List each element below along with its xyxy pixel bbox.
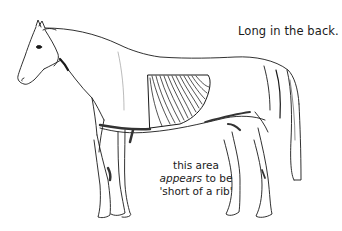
figure-title: Long in the back.: [238, 24, 339, 38]
horse-head: [18, 20, 61, 84]
caption-line-2: appears to be: [150, 172, 242, 185]
horse-chest: [92, 52, 124, 152]
horse-conformation-figure: Long in the back. this area appears to b…: [0, 0, 342, 231]
caption-emphasis: appears: [160, 172, 202, 184]
horse-hindquarters: [255, 66, 280, 132]
horse-tail: [287, 70, 301, 180]
caption-line-2-rest: to be: [202, 172, 232, 184]
caption-line-3: 'short of a rib': [150, 185, 242, 198]
caption-line-1: this area: [150, 159, 242, 172]
rib-annotation-caption: this area appears to be 'short of a rib': [150, 159, 242, 198]
rib-cage-highlight: [148, 75, 210, 128]
